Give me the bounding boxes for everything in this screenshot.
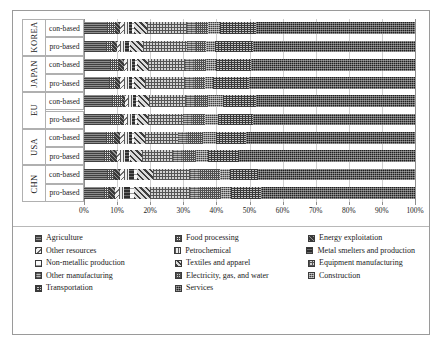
bar-segment-othermfg	[187, 41, 197, 53]
bar-segment-electricity	[193, 114, 205, 126]
bar-segment-electricity	[195, 77, 205, 89]
bar-segment-agriculture	[84, 132, 106, 144]
bar-segment-othermfg	[186, 95, 196, 107]
legend-item-petro: Petrochemical	[174, 247, 306, 255]
bar-segment-transportation	[208, 150, 239, 162]
bar-segment-services	[256, 22, 415, 34]
legend-label: Other resources	[46, 247, 96, 255]
bar-usa-pro-based	[84, 150, 415, 162]
legend-item-energy: Energy exploitation	[308, 234, 382, 242]
bar-segment-food	[107, 22, 115, 34]
bar-segment-transportation	[213, 77, 249, 89]
bar-segment-agriculture	[84, 22, 107, 34]
bar-segment-othermfg	[190, 187, 200, 199]
legend-row: Non-metallic productionTextiles and appa…	[35, 259, 415, 267]
x-tick-label-30: 30%	[177, 206, 191, 215]
group-label-eu: EU	[22, 92, 46, 129]
bar-segment-services	[261, 187, 415, 199]
legend-label: Petrochemical	[185, 247, 231, 255]
legend-item-textiles: Textiles and apparel	[175, 259, 308, 267]
bar-segment-electricity	[188, 132, 203, 144]
bar-segment-electricity	[196, 22, 208, 34]
legend-item-services: Services	[175, 284, 308, 292]
bar-segment-othermfg	[173, 150, 183, 162]
bar-segment-food	[109, 77, 116, 89]
bar-segment-textiles	[130, 41, 143, 53]
legend-label: Transportation	[46, 284, 93, 292]
x-tick-90	[382, 202, 383, 205]
group-label-text: CHN	[29, 174, 39, 193]
x-tick-label-0: 0%	[79, 206, 89, 215]
row-label-eu-con-based: con-based	[46, 92, 84, 110]
legend-label: Metal smelters and production	[317, 247, 415, 255]
bar-segment-equipment	[147, 22, 187, 34]
bar-segment-services	[253, 114, 415, 126]
x-tick-10	[117, 202, 118, 205]
bar-segment-othermfg	[187, 22, 197, 34]
x-tick-label-100: 100%	[406, 206, 423, 215]
bar-segment-transportation	[215, 41, 253, 53]
x-tick-label-50: 50%	[243, 206, 257, 215]
bar-japan-con-based	[84, 59, 415, 71]
bar-segment-energy	[110, 150, 117, 162]
legend-swatch-agriculture-icon	[35, 235, 42, 242]
bar-segment-construction	[205, 77, 213, 89]
gridline-100	[415, 19, 416, 202]
bar-segment-agriculture	[84, 187, 104, 199]
bar-korea-con-based	[84, 22, 415, 34]
bar-segment-electricity	[195, 95, 208, 107]
legend-item-transportation: Transportation	[35, 284, 175, 292]
bar-segment-othermfg	[185, 59, 195, 71]
bar-segment-construction	[206, 59, 216, 71]
bar-usa-con-based	[84, 132, 415, 144]
chart-frame: KOREAJAPANEUUSACHN con-basedpro-basedcon…	[12, 10, 430, 335]
bar-segment-othermfg	[183, 114, 193, 126]
bar-segment-construction	[196, 150, 208, 162]
legend-item-agriculture: Agriculture	[35, 234, 175, 242]
legend-item-nonmetal: Non-metallic production	[35, 259, 175, 267]
legend-item-otherres: Other resources	[35, 247, 174, 255]
row-label-korea-con-based: con-based	[46, 19, 84, 37]
legend-label: Services	[186, 284, 213, 292]
bar-segment-equipment	[142, 150, 173, 162]
bar-segment-services	[253, 41, 415, 53]
bar-segment-textiles	[134, 132, 146, 144]
bar-segment-transportation	[220, 22, 256, 34]
bar-segment-construction	[220, 169, 230, 181]
x-tick-label-90: 90%	[375, 206, 389, 215]
bar-chn-pro-based	[84, 187, 415, 199]
bar-segment-agriculture	[84, 114, 110, 126]
bar-segment-equipment	[145, 77, 185, 89]
legend-row: TransportationServices	[35, 284, 415, 292]
chart-legend: AgricultureFood processingEnergy exploit…	[13, 226, 429, 334]
bar-segment-electricity	[195, 59, 207, 71]
bar-segment-equipment	[148, 114, 183, 126]
bar-segment-transportation	[216, 132, 246, 144]
bar-segment-food	[106, 132, 114, 144]
legend-swatch-petro-icon	[174, 247, 181, 254]
bar-segment-textiles	[134, 187, 151, 199]
group-label-korea: KOREA	[22, 19, 46, 56]
legend-swatch-textiles-icon	[175, 260, 182, 267]
bar-segment-construction	[205, 114, 218, 126]
x-tick-80	[349, 202, 350, 205]
bar-segment-transportation	[231, 187, 261, 199]
x-tick-label-10: 10%	[110, 206, 124, 215]
bar-segment-agriculture	[84, 150, 104, 162]
legend-label: Food processing	[186, 234, 239, 242]
x-tick-70	[316, 202, 317, 205]
bar-segment-food	[106, 41, 113, 53]
x-tick-label-60: 60%	[276, 206, 290, 215]
group-label-text: USA	[29, 138, 39, 156]
group-label-text: KOREA	[29, 22, 39, 53]
bar-segment-services	[239, 150, 414, 162]
legend-swatch-otherres-icon	[35, 247, 42, 254]
bar-segment-construction	[208, 95, 223, 107]
legend-swatch-othermfg-icon	[35, 272, 42, 279]
bar-segment-othermfg	[178, 132, 188, 144]
bar-segment-services	[258, 169, 415, 181]
legend-item-food: Food processing	[175, 234, 308, 242]
bar-korea-pro-based	[84, 41, 415, 53]
legend-item-electricity: Electricity, gas, and water	[175, 272, 308, 280]
legend-label: Non-metallic production	[46, 259, 125, 267]
